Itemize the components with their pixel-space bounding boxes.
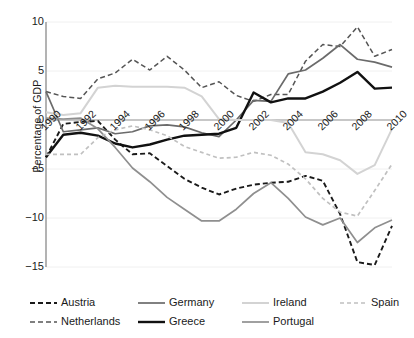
legend-swatch-ireland: [242, 298, 269, 308]
x-axis-tick-labels: 1990199219941996199820002002200420062008…: [0, 0, 414, 338]
legend-swatch-greece: [138, 317, 165, 327]
legend-swatch-spain: [340, 298, 367, 308]
legend-label: Austria: [61, 297, 95, 308]
legend-row: AustriaGermanyIrelandSpain: [30, 294, 406, 311]
x-tick-label: 2010: [384, 107, 409, 132]
x-tick-label: 1996: [142, 107, 167, 132]
legend-item-germany[interactable]: Germany: [138, 294, 214, 311]
legend-item-portugal[interactable]: Portugal: [242, 313, 314, 330]
legend-item-austria[interactable]: Austria: [30, 294, 95, 311]
legend-label: Spain: [371, 297, 399, 308]
legend-swatch-germany: [138, 298, 165, 308]
legend-item-greece[interactable]: Greece: [138, 313, 205, 330]
legend-swatch-netherlands: [30, 317, 57, 327]
chart-screenshot: Percentage of GDP 1050−5−10−15 199019921…: [0, 0, 414, 338]
x-tick-label: 2002: [246, 107, 271, 132]
x-tick-label: 2006: [315, 107, 340, 132]
x-tick-label: 2008: [349, 107, 374, 132]
x-tick-label: 2004: [280, 107, 305, 132]
legend-swatch-portugal: [242, 317, 269, 327]
legend-swatch-austria: [30, 298, 57, 308]
legend-label: Netherlands: [61, 316, 120, 327]
legend-label: Greece: [169, 316, 205, 327]
x-tick-label: 1994: [107, 107, 132, 132]
x-tick-label: 1992: [73, 107, 98, 132]
legend-label: Portugal: [273, 316, 314, 327]
legend-label: Ireland: [273, 297, 307, 308]
legend-row: NetherlandsGreecePortugal: [30, 313, 406, 330]
legend-label: Germany: [169, 297, 214, 308]
chart-legend: AustriaGermanyIrelandSpainNetherlandsGre…: [30, 294, 406, 334]
x-tick-label: 1998: [176, 107, 201, 132]
legend-item-netherlands[interactable]: Netherlands: [30, 313, 120, 330]
legend-item-ireland[interactable]: Ireland: [242, 294, 307, 311]
x-tick-label: 1990: [38, 107, 63, 132]
legend-item-spain[interactable]: Spain: [340, 294, 399, 311]
x-tick-label: 2000: [211, 107, 236, 132]
